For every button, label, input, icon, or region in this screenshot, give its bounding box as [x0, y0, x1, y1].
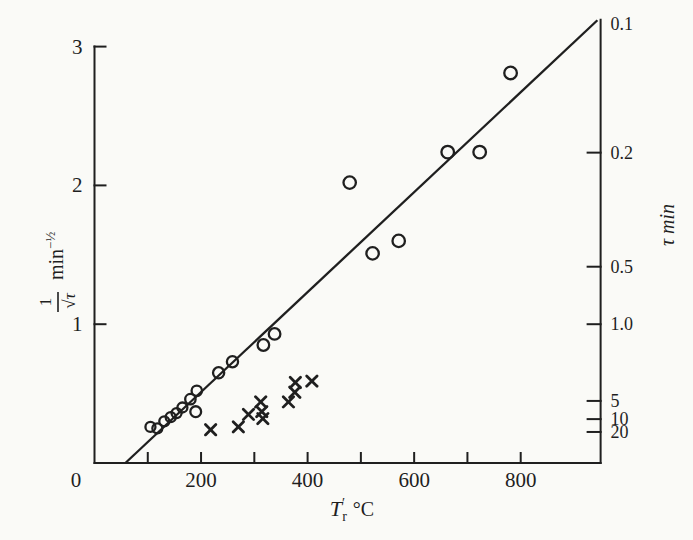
x-tick-label: 200 — [185, 468, 217, 492]
circle-marker — [258, 339, 270, 351]
circle-marker — [343, 176, 355, 188]
circle-marker — [441, 146, 454, 159]
y-left-tick-label: 2 — [72, 173, 83, 197]
y-left-label-unit: min−½ — [43, 232, 67, 280]
y-right-tick-label: 5 — [611, 391, 620, 411]
crosses-series — [205, 376, 317, 435]
y-right-tick-label: 0.2 — [611, 143, 634, 163]
y-right-label-text: τ min — [656, 204, 678, 246]
y-right-tick-label: 0.5 — [611, 257, 634, 277]
circle-marker — [393, 235, 405, 247]
x-tick-label: 400 — [292, 468, 324, 492]
circle-marker — [504, 67, 517, 80]
scatter-chart: 20040060080001230.10.20.51.051020T′r°C1√… — [0, 0, 693, 540]
y-left-tick-label: 3 — [72, 35, 83, 59]
circle-marker — [366, 247, 378, 259]
x-axis-label: T′r°C — [330, 496, 374, 524]
y-axis-left-label: 1√τmin−½ — [36, 232, 79, 312]
circles-series — [145, 67, 516, 434]
y-right-tick-label: 1.0 — [611, 314, 634, 334]
y-axis-right-label: τ min — [656, 204, 678, 246]
y-left-label-denominator: √τ — [60, 292, 79, 308]
y-left-label-numerator: 1 — [36, 298, 55, 307]
x-tick-label: 800 — [505, 468, 537, 492]
y-left-tick-label: 1 — [72, 312, 83, 336]
circle-marker — [269, 328, 281, 340]
y-right-tick-label: 20 — [611, 422, 629, 442]
y-right-tick-label: 0.1 — [611, 14, 634, 34]
circle-marker — [473, 146, 486, 159]
x-origin-label: 0 — [71, 468, 82, 492]
figure-container: 20040060080001230.10.20.51.051020T′r°C1√… — [0, 0, 693, 540]
x-tick-label: 600 — [398, 468, 430, 492]
circle-marker — [190, 406, 201, 417]
